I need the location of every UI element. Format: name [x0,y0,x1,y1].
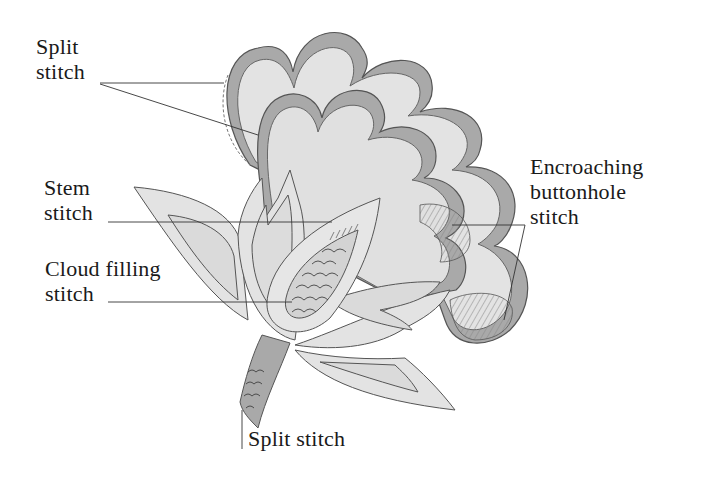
label-line: stitch [530,204,643,229]
label-line: Encroaching [530,154,643,179]
label-line: Split [36,34,85,59]
label-line: stitch [44,200,93,225]
label-line: stitch [36,59,85,84]
label-encroaching-buttonhole-stitch: Encroaching buttonhole stitch [530,154,643,229]
label-line: Split stitch [248,426,345,451]
flower-diagram [0,0,704,479]
label-split-stitch-bottom: Split stitch [248,426,345,451]
label-line: buttonhole [530,179,643,204]
label-stem-stitch: Stem stitch [44,175,93,225]
label-line: Cloud filling [45,256,161,281]
label-line: Stem [44,175,93,200]
label-split-stitch-top: Split stitch [36,34,85,84]
label-cloud-filling-stitch: Cloud filling stitch [45,256,161,306]
flower-stem [240,335,290,428]
label-line: stitch [45,281,161,306]
